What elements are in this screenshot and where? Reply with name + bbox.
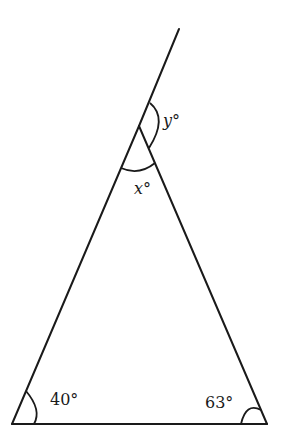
- label-y: y°: [162, 111, 180, 130]
- angle-arc-x: [121, 163, 155, 171]
- angle-arc-40: [26, 391, 37, 424]
- right-side: [139, 126, 267, 424]
- left-side: [12, 126, 139, 424]
- angle-arc-y: [149, 103, 159, 148]
- label-63: 63°: [205, 393, 233, 412]
- angle-arc-63: [241, 408, 261, 424]
- label-x: x°: [134, 179, 151, 198]
- triangle-diagram: 40° 63° x° y°: [0, 0, 281, 447]
- label-40: 40°: [50, 390, 78, 409]
